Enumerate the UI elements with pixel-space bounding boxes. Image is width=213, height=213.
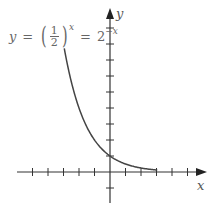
eq-exp: x xyxy=(69,22,74,32)
y-axis-label: y xyxy=(115,6,124,21)
eq-rhs-base: 2 xyxy=(97,29,105,44)
fraction: 1 2 xyxy=(50,25,59,48)
eq-equals: = xyxy=(22,29,33,44)
eq-rhs-exp: −x xyxy=(105,26,118,36)
paren-right: ) xyxy=(62,24,68,48)
paren-left: ( xyxy=(41,24,47,48)
eq-lhs: y xyxy=(9,29,16,44)
equation-label: y = ( 1 2 ) x = 2 −x xyxy=(9,24,118,48)
exponential-curve xyxy=(64,48,157,170)
eq-equals2: = xyxy=(80,29,91,44)
y-axis-arrow-icon xyxy=(106,8,114,19)
frac-num: 1 xyxy=(51,25,58,36)
x-axis-arrow-icon xyxy=(196,168,207,176)
frac-den: 2 xyxy=(51,37,58,48)
x-axis-label: x xyxy=(197,178,205,193)
